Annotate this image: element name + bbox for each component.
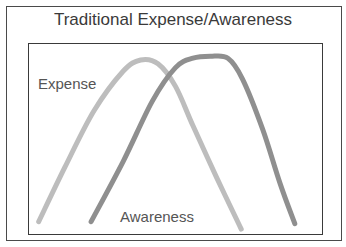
annotation-awareness: Awareness bbox=[120, 208, 194, 225]
series-line-awareness bbox=[91, 56, 295, 224]
annotation-expense: Expense bbox=[38, 75, 96, 92]
